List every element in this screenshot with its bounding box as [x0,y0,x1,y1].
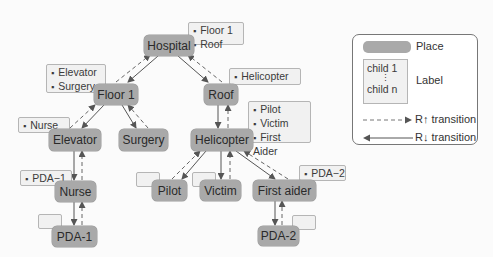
place-floor1: Floor 1 [94,84,138,105]
place-surgery: Surgery [119,129,168,151]
place-hospital: Hospital [144,35,194,56]
place-helicopter: Helicopter [191,129,253,151]
label-firstaider: PDA−2 [299,165,346,181]
label-item: Roof [193,38,239,52]
label-hospital: Floor 1 Roof [188,22,244,45]
label-helicopter: Pilot Victim First Aider [248,101,311,143]
legend-solid-arrow-icon [363,133,413,143]
place-first-aider: First aider [253,180,316,201]
hierarchy-diagram: Floor 1 Roof Elevator Surgery Helicopter… [0,0,493,257]
label-item: First Aider [253,131,306,158]
place-pda1: PDA-1 [52,226,97,247]
place-elevator: Elevator [49,129,101,151]
legend-dashed-arrow-icon [363,115,413,125]
label-item: Pilot [253,103,306,117]
label-item: Elevator [51,66,101,80]
legend-r-down-text: R↓ transition [415,131,476,143]
place-pda2: PDA-2 [258,226,299,246]
label-item: Victim [253,117,306,131]
label-roof: Helicopter [229,68,301,85]
legend-r-up-text: R↑ transition [415,113,476,125]
place-pilot: Pilot [152,180,187,201]
legend: Place child 1 ⋮ child n Label R↑ transit… [352,34,478,145]
place-nurse: Nurse [55,181,96,202]
legend-place-text: Place [416,40,444,52]
place-roof: Roof [204,84,238,105]
legend-child-dots: ⋮ [367,74,404,83]
place-victim: Victim [200,180,241,201]
label-item: Floor 1 [193,24,239,38]
label-item: PDA−2 [304,167,341,181]
legend-label-swatch: child 1 ⋮ child n [363,59,408,104]
label-item: Helicopter [234,70,296,84]
legend-place-swatch [363,41,411,53]
legend-label-text: Label [416,74,443,86]
legend-child-last: child n [367,83,404,95]
